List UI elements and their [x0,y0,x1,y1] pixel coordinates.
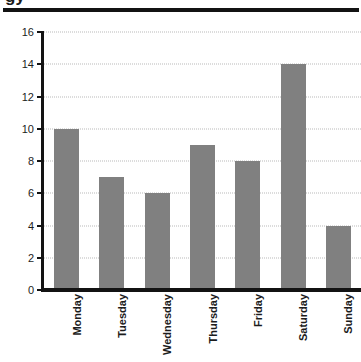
x-axis-tick-label: Sunday [343,294,354,334]
x-axis-tick-label: Tuesday [117,294,128,338]
y-axis-tick-mark [37,96,44,98]
x-axis-tick-labels: MondayTuesdayWednesdayThursdayFridaySatu… [44,294,361,362]
y-axis-tick-mark [37,128,44,130]
y-axis-tick-label: 2 [28,252,34,263]
y-axis-tick-mark [37,257,44,259]
y-axis-tick-label: 4 [28,220,34,231]
x-axis-tick-label: Monday [72,294,83,336]
y-axis-tick-labels: 0246810121416 [0,24,38,289]
y-axis-tick-label: 14 [22,59,34,70]
bar [190,145,215,290]
bar [54,129,79,290]
bar [145,193,170,290]
y-axis-tick-label: 0 [28,285,34,296]
bar [99,177,124,290]
x-axis-tick-label: Wednesday [162,294,173,355]
x-axis-tick-label: Saturday [298,294,309,341]
bar [326,226,351,291]
bar-chart-figure: gy 0246810121416 MondayTuesdayWednesdayT… [0,0,361,362]
x-axis-tick-label: Friday [253,294,264,327]
bar [235,161,260,290]
y-axis-tick-label: 8 [28,156,34,167]
bars-group [44,32,361,290]
top-horizontal-rule [3,8,359,12]
y-axis-tick-mark [37,160,44,162]
bar [281,64,306,290]
plot-wrapper: 0246810121416 MondayTuesdayWednesdayThur… [0,24,361,362]
cropped-title-descender: gy [0,0,361,6]
cropped-title-text: gy [5,0,25,6]
y-axis-tick-mark [37,192,44,194]
y-axis-tick-mark [37,31,44,33]
y-axis-tick-mark [37,63,44,65]
y-axis-tick-label: 12 [22,91,34,102]
y-axis-tick-mark [37,225,44,227]
y-axis-tick-label: 10 [22,123,34,134]
x-axis-tick-label: Thursday [208,294,219,344]
x-axis-line [41,288,361,292]
y-axis-tick-label: 6 [28,188,34,199]
y-axis-tick-label: 16 [22,27,34,38]
